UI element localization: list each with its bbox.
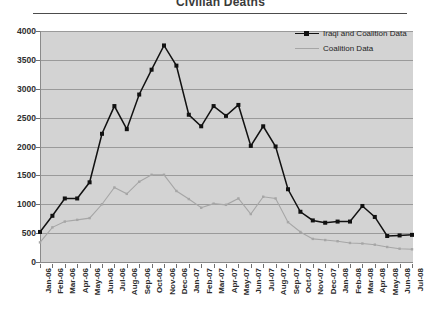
x-axis-tick-mark [238, 264, 239, 268]
x-axis-tick-mark [164, 264, 165, 268]
data-point-marker [88, 217, 90, 219]
legend-label: Coalition Data [323, 43, 373, 55]
x-axis-tick-mark [102, 264, 103, 268]
data-point-marker [126, 193, 128, 195]
data-point-marker [349, 242, 351, 244]
x-axis-tick-mark [40, 264, 41, 268]
data-point-marker [262, 196, 264, 198]
x-axis-tick-mark [139, 264, 140, 268]
x-axis-tick-mark [300, 264, 301, 268]
data-point-marker [212, 202, 214, 204]
data-point-marker [188, 198, 190, 200]
x-axis-tick-label: May-08 [391, 268, 400, 295]
data-point-marker [323, 221, 327, 225]
data-point-marker [249, 144, 253, 148]
y-axis-tick-label: 0 [2, 257, 36, 267]
x-axis-tick-mark [325, 264, 326, 268]
x-axis-tick-mark [226, 264, 227, 268]
x-axis-tick-label: Oct-06 [155, 268, 164, 293]
data-point-marker [150, 174, 152, 176]
x-axis-tick-mark [313, 264, 314, 268]
data-point-marker [199, 124, 203, 128]
data-point-marker [51, 226, 53, 228]
data-point-marker [175, 190, 177, 192]
data-point-marker [336, 240, 338, 242]
x-axis-tick-mark [77, 264, 78, 268]
data-point-marker [385, 234, 389, 238]
data-point-marker [112, 104, 116, 108]
x-axis-tick-mark [263, 264, 264, 268]
data-point-marker [411, 248, 413, 250]
x-axis-tick-mark [52, 264, 53, 268]
series-line [40, 45, 412, 236]
data-point-marker [101, 203, 103, 205]
data-point-marker [410, 233, 414, 237]
chart-legend: Iraqi and Coalition Data Coalition Data [291, 28, 433, 58]
legend-square-marker-icon [304, 31, 309, 36]
data-point-marker [398, 248, 400, 250]
y-axis-tick-label: 2000 [2, 142, 36, 152]
data-point-marker [113, 186, 115, 188]
x-axis-tick-mark [375, 264, 376, 268]
data-point-marker [374, 243, 376, 245]
x-axis-tick-label: Jun-06 [106, 268, 115, 294]
data-point-marker [224, 114, 228, 118]
x-axis-tick-mark [65, 264, 66, 268]
series-line [40, 175, 412, 249]
legend-line-icon [295, 48, 319, 49]
x-axis-tick-label: Jan-06 [44, 268, 53, 293]
x-axis-tick-label: Feb-06 [56, 268, 65, 294]
data-point-marker [286, 187, 290, 191]
data-point-marker [274, 145, 278, 149]
x-axis-tick-mark [350, 264, 351, 268]
x-axis-tick-label: May-06 [93, 268, 102, 295]
data-point-marker [324, 239, 326, 241]
data-point-marker [361, 242, 363, 244]
data-point-marker [75, 196, 79, 200]
x-axis-tick-label: Jul-06 [118, 268, 127, 291]
x-axis-tick-mark [400, 264, 401, 268]
x-axis-tick-mark [114, 264, 115, 268]
y-axis: 40003500300025002000150010005000 [0, 31, 36, 262]
x-axis-tick-label: Mar-06 [68, 268, 77, 294]
data-point-marker [237, 197, 239, 199]
data-point-marker [137, 93, 141, 97]
data-point-marker [76, 219, 78, 221]
y-axis-tick-label: 1000 [2, 199, 36, 209]
legend-label: Iraqi and Coalition Data [323, 28, 407, 40]
x-axis-tick-label: Aug-07 [279, 268, 288, 295]
data-point-marker [64, 220, 66, 222]
data-point-marker [386, 246, 388, 248]
data-point-marker [163, 174, 165, 176]
x-axis-tick-label: Nov-07 [316, 268, 325, 295]
data-point-marker [274, 197, 276, 199]
x-axis-tick-label: Oct-07 [304, 268, 313, 293]
data-point-marker [336, 220, 340, 224]
data-point-marker [38, 230, 42, 234]
data-point-marker [200, 207, 202, 209]
x-axis-tick-mark [362, 264, 363, 268]
data-point-marker [225, 204, 227, 206]
data-point-marker [287, 221, 289, 223]
x-axis-tick-label: Jul-07 [267, 268, 276, 291]
x-axis-tick-label: May-07 [242, 268, 251, 295]
x-axis-tick-label: Apr-06 [81, 268, 90, 293]
x-axis-tick-label: Jan-07 [192, 268, 201, 293]
x-axis-tick-mark [201, 264, 202, 268]
plot-container: 40003500300025002000150010005000 Jan-06F… [0, 0, 441, 310]
series-layer [40, 31, 412, 262]
data-point-marker [360, 204, 364, 208]
data-point-marker [50, 214, 54, 218]
y-axis-tick-mark [36, 262, 40, 263]
x-axis-tick-label: Apr-07 [230, 268, 239, 293]
x-axis-tick-label: Jun-08 [403, 268, 412, 294]
x-axis-tick-label: Dec-07 [329, 268, 338, 294]
y-axis-tick-label: 500 [2, 228, 36, 238]
x-axis-tick-mark [338, 264, 339, 268]
data-point-marker [150, 68, 154, 72]
x-axis-tick-mark [176, 264, 177, 268]
x-axis-tick-label: Aug-06 [130, 268, 139, 295]
y-axis-tick-label: 3000 [2, 84, 36, 94]
data-point-marker [236, 103, 240, 107]
x-axis-tick-label: Mar-08 [366, 268, 375, 294]
